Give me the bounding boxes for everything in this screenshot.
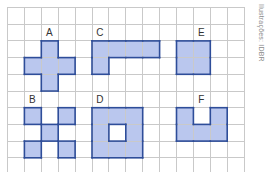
illustration-credit: Ilustrações: IDBR <box>258 4 265 62</box>
shape-a-outline <box>24 41 75 91</box>
grid-figure: ACEBDF Ilustrações: IDBR <box>0 0 267 172</box>
shape-outlines <box>0 0 267 172</box>
shape-f-outline <box>177 108 228 141</box>
shape-d-outline <box>92 108 143 158</box>
shape-c-outline <box>92 41 160 74</box>
shape-b-outline <box>24 108 75 158</box>
shape-e-outline <box>177 41 211 74</box>
